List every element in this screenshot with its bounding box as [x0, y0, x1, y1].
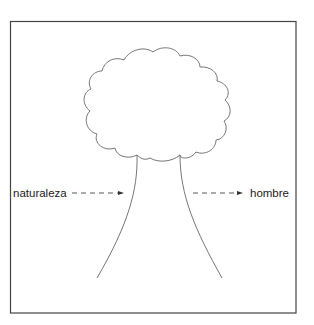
tree-diagram: [0, 0, 314, 325]
label-hombre: hombre: [250, 188, 289, 200]
tree-trunk-right: [180, 155, 222, 278]
diagram-frame: [11, 22, 297, 314]
arrow-right-head: [237, 191, 243, 195]
arrow-left-head: [118, 191, 124, 195]
label-naturaleza: naturaleza: [13, 188, 67, 200]
tree-trunk-left: [97, 155, 137, 278]
tree-crown: [84, 48, 230, 161]
